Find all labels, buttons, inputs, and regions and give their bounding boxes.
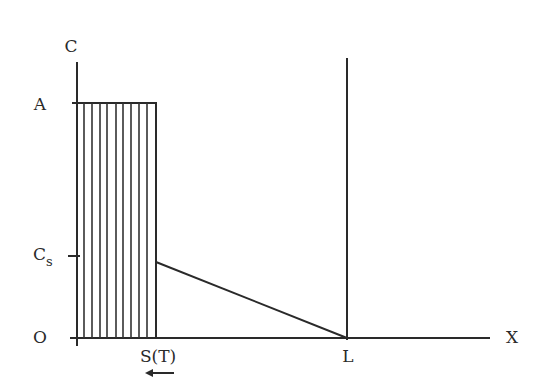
x-axis-label: X (506, 327, 519, 347)
y-axis-label: C (64, 36, 77, 56)
diagram-canvas: C A Cs O S(T) L X (0, 0, 547, 389)
left-arrow-icon (145, 369, 174, 377)
tick-label-st: S(T) (140, 346, 176, 366)
origin-label: O (33, 327, 47, 347)
hatched-region (72, 103, 157, 338)
tick-label-l: L (342, 346, 353, 366)
tick-label-a: A (33, 94, 47, 114)
concentration-profile-line (156, 262, 347, 338)
tick-label-cs: Cs (33, 244, 53, 269)
